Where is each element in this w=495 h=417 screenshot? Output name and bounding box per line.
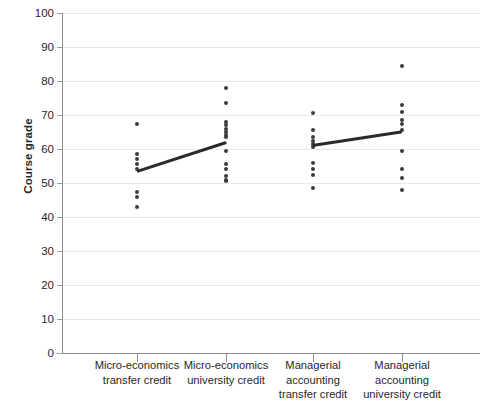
y-axis-title: Course grade <box>22 66 34 246</box>
scatter-point <box>400 167 404 171</box>
scatter-point <box>224 167 228 171</box>
scatter-point <box>311 161 315 165</box>
gridline <box>63 183 480 184</box>
scatter-point <box>135 162 139 166</box>
y-tick-mark <box>57 115 62 116</box>
y-tick-label: 90 <box>41 41 54 53</box>
gridline <box>63 13 480 14</box>
x-axis-line <box>62 353 480 354</box>
scatter-point <box>135 152 139 156</box>
y-tick-mark <box>57 47 62 48</box>
gridline <box>63 81 480 82</box>
scatter-point <box>224 86 228 90</box>
y-tick-mark <box>57 251 62 252</box>
gridline <box>63 217 480 218</box>
scatter-point <box>311 111 315 115</box>
y-tick-mark <box>57 183 62 184</box>
y-tick-label: 10 <box>41 313 54 325</box>
y-tick-label: 20 <box>41 279 54 291</box>
scatter-point <box>400 64 404 68</box>
scatter-point <box>224 135 228 139</box>
x-axis-label-line: Managerial <box>343 358 461 373</box>
chart-root: Course grade 1009080706050403020100 Micr… <box>0 0 495 417</box>
x-axis-label-line: accounting <box>343 373 461 388</box>
y-tick-mark <box>57 149 62 150</box>
gridline <box>63 251 480 252</box>
y-tick-mark <box>57 217 62 218</box>
y-tick-label: 70 <box>41 109 54 121</box>
gridline <box>63 47 480 48</box>
y-tick-label: 60 <box>41 143 54 155</box>
scatter-point <box>400 110 404 114</box>
scatter-point <box>135 190 139 194</box>
scatter-point <box>400 122 404 126</box>
x-axis-label: Managerialaccountinguniversity credit <box>343 358 461 402</box>
scatter-point <box>224 101 228 105</box>
y-tick-mark <box>57 353 62 354</box>
scatter-point <box>311 128 315 132</box>
y-tick-mark <box>57 285 62 286</box>
x-axis-labels: Micro-economicstransfer creditMicro-econ… <box>62 358 480 416</box>
scatter-point <box>400 188 404 192</box>
y-tick-label: 0 <box>48 347 54 359</box>
y-tick-label: 50 <box>41 177 54 189</box>
scatter-point <box>135 195 139 199</box>
scatter-point <box>224 179 228 183</box>
gridline <box>63 285 480 286</box>
scatter-point <box>135 205 139 209</box>
gridline <box>63 149 480 150</box>
scatter-point <box>224 162 228 166</box>
x-axis-label-line: university credit <box>343 387 461 402</box>
scatter-point <box>400 176 404 180</box>
scatter-point <box>135 122 139 126</box>
y-tick-label: 80 <box>41 75 54 87</box>
mean-connector <box>313 131 402 148</box>
plot-area: 1009080706050403020100 <box>62 13 480 353</box>
y-tick-label: 30 <box>41 245 54 257</box>
scatter-point <box>311 186 315 190</box>
y-tick-mark <box>57 319 62 320</box>
y-tick-mark <box>57 13 62 14</box>
scatter-point <box>400 149 404 153</box>
gridline <box>63 115 480 116</box>
scatter-point <box>311 173 315 177</box>
scatter-point <box>400 103 404 107</box>
y-tick-label: 40 <box>41 211 54 223</box>
gridline <box>63 319 480 320</box>
y-tick-mark <box>57 81 62 82</box>
y-tick-label: 100 <box>35 7 54 19</box>
mean-connector <box>137 141 227 173</box>
scatter-point <box>224 149 228 153</box>
scatter-point <box>135 157 139 161</box>
scatter-point <box>311 167 315 171</box>
